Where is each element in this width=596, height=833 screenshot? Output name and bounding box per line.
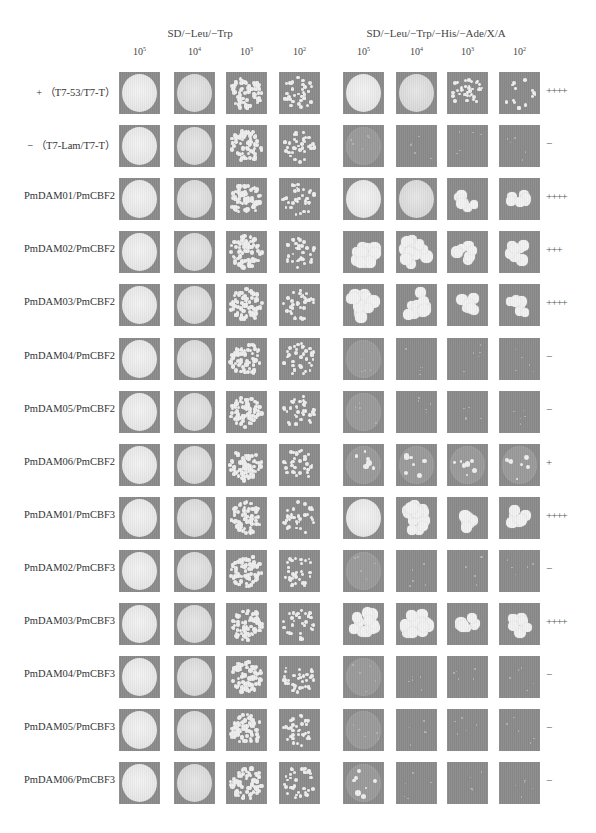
colony xyxy=(243,317,246,320)
colony xyxy=(248,144,251,147)
colony xyxy=(365,465,368,468)
colony xyxy=(302,734,305,737)
colony xyxy=(248,410,252,414)
colony xyxy=(239,774,243,778)
colony xyxy=(238,730,242,734)
colony xyxy=(298,686,302,690)
colony xyxy=(238,740,241,743)
colony xyxy=(229,415,233,419)
colony xyxy=(230,733,233,736)
colony xyxy=(245,466,248,469)
plate-spot xyxy=(226,284,267,326)
colony xyxy=(289,305,293,309)
colony xyxy=(301,95,304,98)
colony xyxy=(247,771,250,774)
colony xyxy=(240,291,244,295)
colony xyxy=(286,792,289,795)
micro-colony xyxy=(515,574,517,576)
large-colony xyxy=(451,246,463,258)
micro-colony xyxy=(375,422,377,424)
colony xyxy=(289,735,293,739)
colony xyxy=(247,416,251,420)
dilution-exponent: 4 xyxy=(420,46,423,52)
large-colony xyxy=(369,247,381,259)
large-colony xyxy=(508,614,517,623)
colony xyxy=(239,579,243,583)
colony xyxy=(243,197,247,201)
colony xyxy=(303,150,306,153)
colony xyxy=(253,785,257,789)
colony xyxy=(294,575,298,579)
confluent-lawn xyxy=(177,552,212,590)
micro-colony xyxy=(453,672,455,674)
colony xyxy=(232,404,236,408)
colony xyxy=(352,779,355,782)
colony xyxy=(253,155,256,158)
colony xyxy=(472,98,476,102)
colony xyxy=(236,184,240,188)
large-colony xyxy=(419,245,428,254)
plate-spot xyxy=(119,72,160,114)
colony xyxy=(239,399,243,403)
colony xyxy=(240,632,243,635)
colony xyxy=(287,151,291,155)
colony xyxy=(236,732,240,736)
plate-spot xyxy=(499,550,540,592)
plate-spot xyxy=(226,72,267,114)
colony xyxy=(247,634,250,637)
colony xyxy=(244,557,248,561)
colony xyxy=(250,343,253,346)
micro-colony xyxy=(419,374,421,376)
colony xyxy=(232,144,236,148)
colony xyxy=(258,523,261,526)
colony xyxy=(291,183,295,187)
colony xyxy=(243,259,247,263)
colony xyxy=(304,612,307,615)
colony xyxy=(242,687,246,691)
colony xyxy=(250,296,254,300)
colony xyxy=(254,787,258,791)
colony xyxy=(235,685,239,689)
colony xyxy=(243,674,247,678)
colony xyxy=(243,199,246,202)
colony xyxy=(240,663,243,666)
colony xyxy=(250,731,254,735)
colony xyxy=(462,463,467,468)
colony xyxy=(245,104,249,108)
plate-spot xyxy=(174,444,215,486)
plate-spot xyxy=(279,656,320,698)
colony xyxy=(310,258,313,261)
colony xyxy=(249,737,252,740)
colony xyxy=(289,773,292,776)
large-colony xyxy=(361,251,373,263)
colony xyxy=(249,235,252,238)
colony xyxy=(306,737,309,740)
colony xyxy=(239,791,242,794)
colony xyxy=(294,778,298,782)
colony xyxy=(237,406,240,409)
colony xyxy=(248,562,252,566)
plate-spot xyxy=(396,231,437,273)
colony xyxy=(284,670,287,673)
micro-colony xyxy=(459,150,461,152)
plate-spot xyxy=(279,125,320,167)
micro-colony xyxy=(458,678,460,680)
assay-row: PmDAM04/PmCBF3− xyxy=(0,656,596,700)
colony xyxy=(249,305,252,308)
colony xyxy=(229,250,233,254)
colony xyxy=(231,364,235,368)
colony xyxy=(245,359,249,363)
plate-spot xyxy=(499,72,540,114)
confluent-lawn xyxy=(122,552,157,590)
colony xyxy=(230,411,234,415)
interaction-score: − xyxy=(546,774,551,786)
large-colony xyxy=(513,515,525,527)
colony xyxy=(234,566,238,570)
large-colony xyxy=(351,254,363,266)
colony xyxy=(252,414,256,418)
colony xyxy=(245,518,248,521)
colony xyxy=(233,780,237,784)
colony xyxy=(291,577,294,580)
confluent-lawn xyxy=(177,446,212,484)
colony xyxy=(241,252,244,255)
